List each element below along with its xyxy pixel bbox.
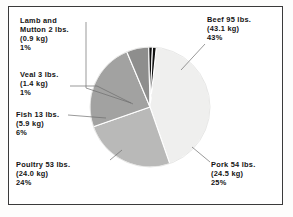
callout-lamb-line-4: 1% — [20, 43, 69, 52]
callout-pork-line-1: Pork 54 lbs. — [211, 160, 256, 169]
callout-fish-line-1: Fish 13 lbs. — [16, 110, 59, 119]
callout-veal: Veal 3 lbs. (1.4 kg) 1% — [20, 70, 59, 97]
callout-pork: Pork 54 lbs. (24.5 kg) 25% — [211, 160, 256, 187]
callout-beef-line-1: Beef 95 lbs. — [207, 15, 251, 24]
callout-poultry: Poultry 53 lbs. (24.0 kg) 24% — [16, 160, 70, 187]
callout-beef-line-3: 43% — [207, 33, 251, 42]
callout-veal-line-3: 1% — [20, 88, 59, 97]
callout-poultry-line-3: 24% — [16, 178, 70, 187]
callout-veal-line-1: Veal 3 lbs. — [20, 70, 59, 79]
callout-lamb-line-3: (0.9 kg) — [20, 34, 69, 43]
callout-pork-line-2: (24.5 kg) — [211, 169, 256, 178]
callout-lamb-line-2: Mutton 2 lbs. — [20, 25, 69, 34]
callout-fish-line-3: 6% — [16, 128, 59, 137]
callout-beef-line-2: (43.1 kg) — [207, 24, 251, 33]
leader-line-pork — [192, 147, 210, 162]
callout-poultry-line-2: (24.0 kg) — [16, 169, 70, 178]
callout-fish-line-2: (5.9 kg) — [16, 119, 59, 128]
callout-lamb-and-mutton: Lamb and Mutton 2 lbs. (0.9 kg) 1% — [20, 16, 69, 52]
callout-veal-line-2: (1.4 kg) — [20, 79, 59, 88]
figure-canvas: Lamb and Mutton 2 lbs. (0.9 kg) 1% Veal … — [0, 0, 293, 217]
callout-poultry-line-1: Poultry 53 lbs. — [16, 160, 70, 169]
callout-lamb-line-1: Lamb and — [20, 16, 69, 25]
callout-fish: Fish 13 lbs. (5.9 kg) 6% — [16, 110, 59, 137]
callout-beef: Beef 95 lbs. (43.1 kg) 43% — [207, 15, 251, 42]
callout-pork-line-3: 25% — [211, 178, 256, 187]
pie-slice-group — [90, 47, 210, 167]
